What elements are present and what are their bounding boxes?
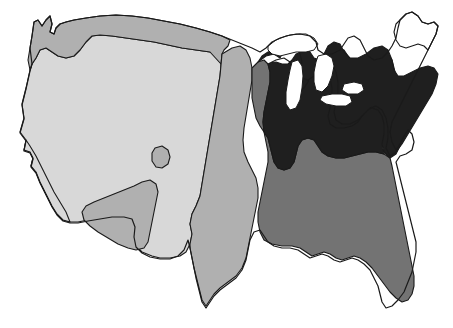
map-container [0, 0, 453, 328]
lake-ontario [342, 82, 364, 94]
us-choropleth-map [0, 0, 453, 328]
region-class-light-medium-enclave [152, 146, 170, 168]
